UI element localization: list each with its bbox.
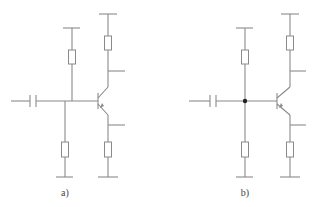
circuit-a-resistor-icon — [62, 142, 69, 157]
circuit-a-resistor-icon — [105, 36, 112, 50]
circuit-b-junction-dot — [243, 99, 247, 103]
circuit-b-resistor-icon — [242, 142, 249, 157]
circuit-b-label: b) — [241, 187, 249, 198]
circuit-b-transistor-emitter — [277, 104, 290, 115]
circuit-a-label: a) — [61, 187, 69, 198]
circuit-b-resistor-icon — [242, 50, 249, 64]
circuit-a-resistor-icon — [105, 142, 112, 157]
circuit-a-transistor-collector — [98, 87, 108, 98]
circuit-a-emitter-arrow-icon — [100, 103, 104, 108]
circuit-b-resistor-icon — [287, 142, 294, 157]
circuit-a-resistor-icon — [69, 50, 76, 64]
circuit-b-transistor-collector — [277, 87, 290, 98]
circuit-diagrams — [0, 0, 313, 207]
circuit-b-resistor-icon — [287, 36, 294, 50]
